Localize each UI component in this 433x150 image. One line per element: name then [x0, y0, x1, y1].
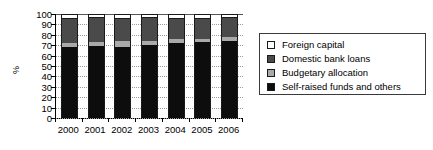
y-axis-tick-label: 20 — [30, 93, 52, 102]
legend-item: Self-raised funds and others — [267, 80, 419, 93]
x-axis-tick-label: 2002 — [107, 124, 137, 136]
bar-segment — [61, 19, 78, 43]
bar-stack — [88, 14, 105, 118]
x-axis-tick-mark — [82, 118, 83, 122]
y-axis-tick-mark — [51, 76, 55, 77]
bar-segment — [194, 39, 211, 42]
y-axis-tick-mark — [51, 66, 55, 67]
bar-segment — [114, 41, 131, 47]
bar-segment — [194, 19, 211, 39]
bar-segment — [221, 37, 238, 41]
y-axis-tick-mark — [51, 45, 55, 46]
bar-segment — [168, 19, 185, 39]
y-axis-tick-label: 90 — [30, 20, 52, 29]
bar-stack — [114, 14, 131, 118]
legend-item-label: Budgetary allocation — [282, 67, 368, 78]
legend-swatch-icon — [267, 69, 275, 77]
legend-item-label: Foreign capital — [282, 39, 344, 50]
bar-segment — [88, 42, 105, 46]
bar-segment — [88, 14, 105, 18]
legend-swatch-icon — [267, 83, 275, 91]
legend-swatch-icon — [267, 55, 275, 63]
bar-segment — [114, 14, 131, 19]
bar-stack — [194, 14, 211, 118]
x-axis-tick-mark — [242, 118, 243, 122]
bar-segment — [61, 14, 78, 19]
y-axis-tick-label: 80 — [30, 30, 52, 39]
y-axis-tick-mark — [51, 24, 55, 25]
legend-item: Foreign capital — [267, 38, 419, 51]
bar-column — [194, 14, 211, 118]
bar-segment — [88, 46, 105, 118]
bar-segment — [114, 47, 131, 118]
y-axis-tick-label: 100 — [30, 10, 52, 19]
bar-segment — [141, 18, 158, 41]
y-axis-tick-label: 40 — [30, 72, 52, 81]
x-axis-tick-label: 2000 — [53, 124, 83, 136]
legend-swatch-icon — [267, 41, 275, 49]
bar-stack — [61, 14, 78, 118]
x-axis-tick-marks — [55, 118, 243, 123]
bar-segment — [114, 19, 131, 41]
bar-segment — [168, 43, 185, 118]
x-axis-tick-mark — [108, 118, 109, 122]
x-axis-tick-label: 2004 — [160, 124, 190, 136]
bar-segment — [194, 42, 211, 118]
legend-item-label: Self-raised funds and others — [282, 81, 401, 92]
bar-column — [114, 14, 131, 118]
chart-legend: Foreign capitalDomestic bank loansBudget… — [259, 33, 426, 95]
y-axis-tick-label: 70 — [30, 41, 52, 50]
y-axis-tick-label: 0 — [30, 114, 52, 123]
x-axis-tick-mark — [162, 118, 163, 122]
bar-stack — [141, 14, 158, 118]
bar-column — [88, 14, 105, 118]
stacked-bar-chart-figure: % 1009080706050403020100 200020012002200… — [0, 0, 433, 150]
bar-segment — [221, 41, 238, 118]
y-axis-tick-label: 60 — [30, 51, 52, 60]
y-axis-tick-labels: 1009080706050403020100 — [26, 14, 52, 118]
bar-column — [141, 14, 158, 118]
bar-segment — [141, 14, 158, 18]
x-axis-tick-label: 2003 — [134, 124, 164, 136]
y-axis-tick-label: 10 — [30, 103, 52, 112]
x-axis-tick-label: 2005 — [187, 124, 217, 136]
bar-stack — [168, 14, 185, 118]
x-axis-tick-labels: 2000200120022003200420052006 — [55, 124, 243, 138]
bar-stack — [221, 14, 238, 118]
bar-segment — [88, 18, 105, 42]
y-axis-tick-mark — [51, 87, 55, 88]
legend-item-label: Domestic bank loans — [282, 53, 370, 64]
bar-segment — [141, 45, 158, 118]
bar-segment — [168, 39, 185, 43]
y-axis-tick-mark — [51, 35, 55, 36]
y-axis-title: % — [4, 60, 28, 80]
y-axis-tick-label: 50 — [30, 62, 52, 71]
x-axis-tick-mark — [215, 118, 216, 122]
x-axis-tick-label: 2001 — [80, 124, 110, 136]
bar-column — [61, 14, 78, 118]
bar-column — [168, 14, 185, 118]
y-axis-tick-mark — [51, 108, 55, 109]
x-axis-tick-mark — [189, 118, 190, 122]
bar-segment — [221, 18, 238, 37]
legend-item: Budgetary allocation — [267, 66, 419, 79]
y-axis-tick-label: 30 — [30, 82, 52, 91]
bar-segment — [168, 14, 185, 19]
bar-segment — [194, 14, 211, 19]
y-axis-tick-mark — [51, 97, 55, 98]
x-axis-tick-label: 2006 — [214, 124, 244, 136]
bar-segment — [221, 14, 238, 18]
x-axis-tick-mark — [55, 118, 56, 122]
y-axis-tick-mark — [51, 56, 55, 57]
y-axis-tick-mark — [51, 14, 55, 15]
legend-item: Domestic bank loans — [267, 52, 419, 65]
x-axis-tick-mark — [135, 118, 136, 122]
bar-segment — [141, 41, 158, 45]
bar-segment — [61, 47, 78, 118]
plot-area — [55, 14, 243, 119]
bar-segment — [61, 43, 78, 47]
bar-column — [221, 14, 238, 118]
